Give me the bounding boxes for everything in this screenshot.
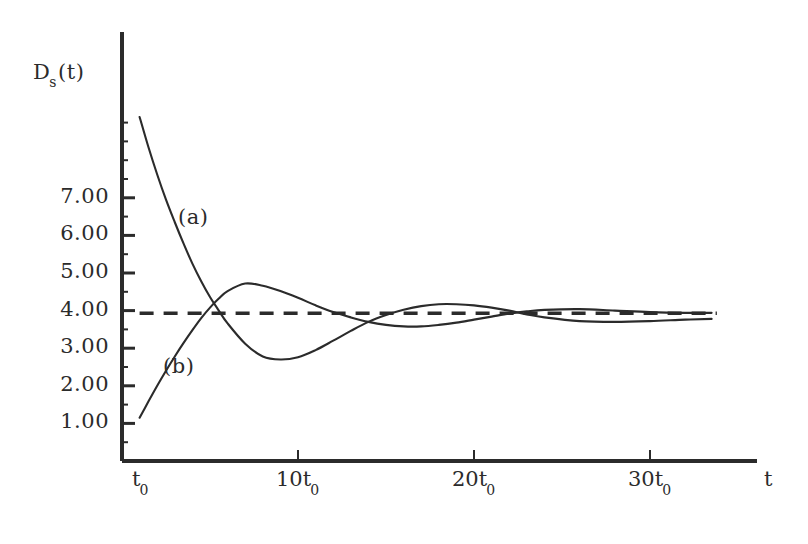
y-tick-label-2-00: 2.00 (25, 372, 109, 396)
y-tick-label-6-00: 6.00 (25, 221, 109, 245)
plot-area (0, 0, 808, 544)
x-tick-label-subscript: 0 (486, 482, 495, 498)
y-tick-label-4-00: 4.00 (25, 297, 109, 321)
x-tick-label-subscript: 0 (310, 482, 319, 498)
x-tick-label-main: 20t (452, 467, 487, 491)
y-tick-label-3-00: 3.00 (25, 334, 109, 358)
x-tick-label-subscript: 0 (662, 482, 671, 498)
x-tick-label-10t0: 10t0 (276, 467, 320, 494)
y-tick-label-1-00: 1.00 (25, 409, 109, 433)
y-axis-title-subscript: s (49, 74, 57, 90)
x-tick-label-20t0: 20t0 (452, 467, 496, 494)
figure-container: Ds(t) t (a) (b) 7.006.005.004.003.002.00… (0, 0, 808, 544)
x-tick-label-30t0: 30t0 (628, 467, 672, 494)
y-axis-title-tail: (t) (58, 60, 84, 84)
y-axis-title: Ds(t) (33, 60, 84, 87)
curve-a-label: (a) (178, 205, 208, 229)
curve-a-line (140, 117, 712, 360)
x-tick-label-main: 30t (628, 467, 663, 491)
x-tick-label-main: 10t (276, 467, 311, 491)
y-tick-label-5-00: 5.00 (25, 259, 109, 283)
curve-b-line (140, 283, 712, 417)
y-axis-title-main: D (33, 60, 50, 84)
x-tick-label-t0: t0 (132, 467, 149, 494)
x-axis-title: t (764, 467, 772, 491)
x-tick-label-subscript: 0 (140, 482, 149, 498)
curve-b-label: (b) (163, 354, 194, 378)
y-tick-label-7-00: 7.00 (25, 184, 109, 208)
